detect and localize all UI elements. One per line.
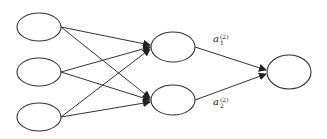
neural-network-diagram	[0, 0, 327, 139]
label-subscript: 1	[220, 40, 229, 45]
label-a1-2: a(2)1	[213, 34, 228, 45]
label-a2-2: a(2)2	[213, 97, 228, 108]
edge-in1-h2	[61, 27, 150, 98]
edge-in2-h2	[61, 72, 150, 100]
edge-in1-h1	[61, 27, 150, 45]
hidden-node-1	[151, 32, 195, 62]
edge-h2-out	[195, 74, 266, 100]
label-subscript: 2	[220, 103, 229, 108]
input-node-2	[17, 58, 61, 86]
label-base: a	[213, 96, 219, 107]
input-node-3	[17, 103, 61, 131]
output-node	[267, 55, 311, 89]
input-node-1	[17, 13, 61, 41]
edge-h1-out	[195, 47, 266, 70]
edge-in3-h2	[61, 102, 150, 117]
label-base: a	[213, 33, 219, 44]
hidden-node-2	[151, 85, 195, 115]
